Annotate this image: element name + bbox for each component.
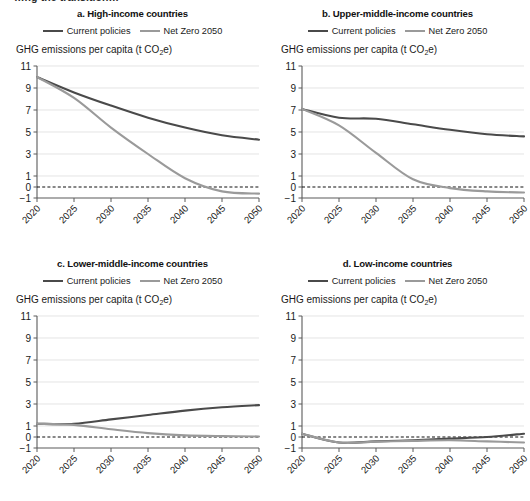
legend-swatch-net-zero-2050 [140, 280, 160, 283]
panel-d-title: d. Low-income countries [265, 258, 530, 269]
panel-c-svg: −1013579112020202520302035204020452050 [0, 308, 265, 498]
legend-label-current-policies: Current policies [332, 276, 396, 286]
axis-label-subscript: 2 [424, 49, 428, 56]
axis-label-prefix: GHG emissions per capita (t CO [281, 294, 424, 305]
x-tick-label: 2035 [396, 203, 419, 226]
panel-a-plot-area: −1013579112020202520302035204020452050 [0, 58, 265, 248]
panel-a: a. High-income countries Current policie… [0, 0, 265, 250]
x-tick-label: 2045 [470, 453, 493, 476]
y-tick-label: 0 [25, 432, 31, 443]
y-tick-label: 3 [25, 149, 31, 160]
panel-b-plot-area: −1013579112020202520302035204020452050 [265, 58, 530, 248]
axis-label-prefix: GHG emissions per capita (t CO [281, 44, 424, 55]
legend-entry-current-policies: Current policies [43, 276, 131, 286]
series-line-net-zero-2050 [302, 434, 524, 443]
legend-entry-net-zero-2050: Net Zero 2050 [140, 276, 223, 286]
legend-label-current-policies: Current policies [67, 26, 131, 36]
x-tick-label: 2040 [168, 453, 191, 476]
legend-entry-net-zero-2050: Net Zero 2050 [405, 276, 488, 286]
x-tick-label: 2045 [470, 203, 493, 226]
y-tick-label: 9 [25, 333, 31, 344]
x-tick-label: 2025 [322, 203, 345, 226]
legend-label-net-zero-2050: Net Zero 2050 [164, 26, 223, 36]
legend-swatch-current-policies [43, 280, 63, 283]
x-tick-label: 2050 [507, 453, 530, 476]
y-tick-label: 9 [290, 333, 296, 344]
legend-entry-current-policies: Current policies [308, 276, 396, 286]
y-tick-label: 7 [25, 105, 31, 116]
x-tick-label: 2020 [285, 453, 308, 476]
series-line-net-zero-2050 [302, 109, 524, 193]
panel-d-svg: −1013579112020202520302035204020452050 [265, 308, 530, 498]
legend-entry-current-policies: Current policies [308, 26, 396, 36]
x-tick-label: 2050 [242, 453, 265, 476]
y-tick-label: 5 [25, 377, 31, 388]
axis-label-suffix: e) [163, 44, 172, 55]
y-tick-label: 7 [290, 355, 296, 366]
y-tick-label: 3 [290, 399, 296, 410]
y-tick-label: 11 [21, 61, 32, 72]
series-line-current-policies [37, 77, 259, 140]
panel-c-title: c. Lower-middle-income countries [0, 258, 265, 269]
panel-d: d. Low-income countries Current policies… [265, 250, 530, 501]
legend-label-current-policies: Current policies [67, 276, 131, 286]
x-tick-label: 2020 [20, 203, 43, 226]
y-tick-label: 9 [290, 83, 296, 94]
legend-swatch-current-policies [43, 30, 63, 33]
x-tick-label: 2030 [94, 453, 117, 476]
x-tick-label: 2035 [396, 453, 419, 476]
legend-swatch-current-policies [308, 30, 328, 33]
panel-c-legend: Current policies Net Zero 2050 [0, 276, 265, 286]
figure-root: …ng the transition… a. High-income count… [0, 0, 530, 501]
x-tick-label: 2030 [359, 453, 382, 476]
x-tick-label: 2030 [94, 203, 117, 226]
axis-label-suffix: e) [428, 294, 437, 305]
y-tick-label: −1 [20, 443, 32, 454]
panel-a-y-axis-label: GHG emissions per capita (t CO2e) [16, 44, 172, 55]
y-tick-label: 5 [290, 127, 296, 138]
y-tick-label: 7 [290, 105, 296, 116]
panel-a-legend: Current policies Net Zero 2050 [0, 26, 265, 36]
axis-label-prefix: GHG emissions per capita (t CO [16, 294, 159, 305]
y-tick-label: 0 [290, 182, 296, 193]
panel-b-legend: Current policies Net Zero 2050 [265, 26, 530, 36]
axis-label-suffix: e) [428, 44, 437, 55]
y-tick-label: 11 [21, 311, 32, 322]
y-tick-label: −1 [285, 193, 297, 204]
y-tick-label: 0 [290, 432, 296, 443]
legend-swatch-net-zero-2050 [405, 30, 425, 33]
legend-entry-net-zero-2050: Net Zero 2050 [140, 26, 223, 36]
x-tick-label: 2040 [168, 203, 191, 226]
legend-entry-net-zero-2050: Net Zero 2050 [405, 26, 488, 36]
y-tick-label: 11 [286, 61, 297, 72]
y-tick-label: 5 [25, 127, 31, 138]
series-line-current-policies [37, 405, 259, 424]
legend-swatch-net-zero-2050 [140, 30, 160, 33]
y-tick-label: 1 [25, 171, 31, 182]
panel-grid: a. High-income countries Current policie… [0, 0, 530, 501]
y-tick-label: 1 [290, 421, 296, 432]
panel-b-svg: −1013579112020202520302035204020452050 [265, 58, 530, 248]
y-tick-label: 11 [286, 311, 297, 322]
x-tick-label: 2050 [507, 203, 530, 226]
x-tick-label: 2035 [131, 203, 154, 226]
panel-c: c. Lower-middle-income countries Current… [0, 250, 265, 501]
x-tick-label: 2045 [205, 453, 228, 476]
legend-label-current-policies: Current policies [332, 26, 396, 36]
x-tick-label: 2035 [131, 453, 154, 476]
y-tick-label: −1 [20, 193, 32, 204]
axis-label-subscript: 2 [159, 49, 163, 56]
legend-entry-current-policies: Current policies [43, 26, 131, 36]
x-tick-label: 2040 [433, 203, 456, 226]
x-tick-label: 2020 [20, 453, 43, 476]
x-tick-label: 2025 [57, 203, 80, 226]
panel-d-legend: Current policies Net Zero 2050 [265, 276, 530, 286]
x-tick-label: 2045 [205, 203, 228, 226]
panel-b: b. Upper-middle-income countries Current… [265, 0, 530, 250]
axis-label-subscript: 2 [159, 299, 163, 306]
panel-b-title: b. Upper-middle-income countries [265, 8, 530, 19]
y-tick-label: 1 [25, 421, 31, 432]
y-tick-label: 1 [290, 171, 296, 182]
legend-swatch-current-policies [308, 280, 328, 283]
y-tick-label: 0 [25, 182, 31, 193]
